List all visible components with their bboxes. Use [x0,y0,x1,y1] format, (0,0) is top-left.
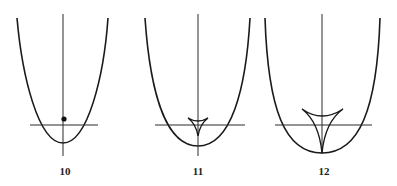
figure-label-12: 12 [319,165,331,177]
figure-11: 11 [145,14,250,177]
figure-label-11: 11 [193,165,203,177]
figure-label-10: 10 [60,165,72,177]
focus-point-10 [61,116,66,121]
figure-12: 12 [265,14,380,177]
figure-10: 10 [17,14,108,177]
diagram-canvas: 10 11 12 [0,0,397,186]
